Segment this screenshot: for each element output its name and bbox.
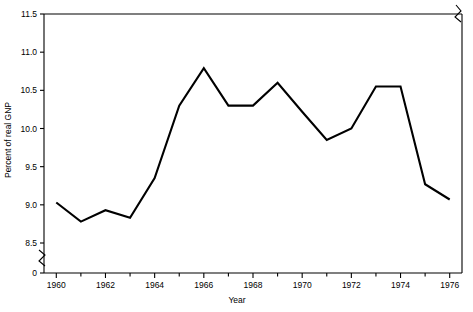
y-tick-label: 9.5 — [25, 162, 37, 172]
x-tick-label: 1968 — [244, 280, 263, 290]
x-tick-label: 1960 — [47, 280, 66, 290]
x-tick-label: 1972 — [342, 280, 361, 290]
x-axis-tick-labels: 196019621964196619681970197219741976 — [47, 280, 460, 290]
y-tick-label: 10.0 — [20, 124, 37, 134]
chart-container: 08.59.09.510.010.511.011.5 1960196219641… — [0, 0, 473, 312]
x-tick-label: 1966 — [194, 280, 213, 290]
y-tick-label: 10.5 — [20, 85, 37, 95]
y-axis-title: Percent of real GNP — [3, 102, 13, 178]
y-tick-label: 11.5 — [21, 9, 37, 19]
x-tick-label: 1970 — [293, 280, 312, 290]
y-tick-label: 8.5 — [25, 238, 37, 248]
x-axis-title: Year — [228, 295, 245, 305]
x-tick-label: 1974 — [391, 280, 410, 290]
y-tick-label: 0 — [32, 268, 37, 278]
x-tick-label: 1962 — [96, 280, 115, 290]
x-tick-label: 1976 — [440, 280, 459, 290]
y-tick-label: 11.0 — [21, 47, 37, 57]
y-tick-label: 9.0 — [25, 200, 37, 210]
x-tick-label: 1964 — [145, 280, 164, 290]
chart-background — [0, 0, 473, 312]
line-chart: 08.59.09.510.010.511.011.5 1960196219641… — [0, 0, 473, 312]
